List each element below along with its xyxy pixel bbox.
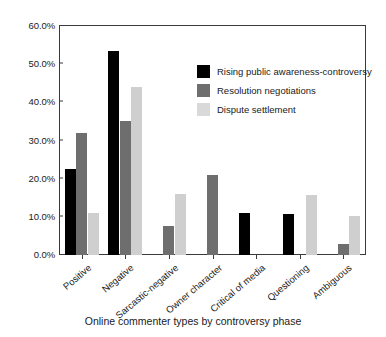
bar-group: [283, 26, 317, 255]
legend-item: Resolution negotiations: [197, 81, 372, 100]
x-axis-tick-mark: [300, 255, 301, 259]
y-axis-tick-label: 50.0%: [29, 58, 55, 69]
bar: [120, 121, 131, 255]
y-axis-tick-label: 40.0%: [29, 96, 55, 107]
x-axis-title: Online commenter types by controversy ph…: [0, 315, 386, 327]
bar-chart: 0.0%10.0%20.0%30.0%40.0%50.0%60.0% Posit…: [0, 0, 386, 337]
bar: [239, 213, 250, 255]
bar-group: [65, 26, 99, 255]
bar: [88, 213, 99, 255]
bar: [175, 194, 186, 255]
bar: [283, 214, 294, 255]
x-axis-tick-mark: [125, 255, 126, 259]
legend-swatch-icon: [197, 103, 210, 116]
bar-group: [239, 26, 273, 255]
x-axis-tick-mark: [213, 255, 214, 259]
bar-group: [196, 26, 230, 255]
x-axis-category-label: Negative: [100, 262, 136, 295]
legend-item: Rising public awareness-controversy: [197, 62, 372, 81]
y-axis-tick-label: 30.0%: [29, 134, 55, 145]
legend-item: Dispute settlement: [197, 100, 372, 119]
bar: [163, 226, 174, 255]
bar: [338, 244, 349, 255]
x-axis-tick-mark: [343, 255, 344, 259]
bar-group: [108, 26, 142, 255]
y-axis-tick-mark: [59, 177, 63, 178]
y-axis-tick-label: 0.0%: [34, 249, 55, 260]
x-axis-category-label: Positive: [61, 262, 94, 292]
y-axis-tick-mark: [59, 63, 63, 64]
legend-label: Dispute settlement: [217, 104, 296, 115]
legend-label: Resolution negotiations: [217, 85, 316, 96]
bar: [76, 133, 87, 255]
chart-legend: Rising public awareness-controversyResol…: [197, 62, 372, 119]
legend-label: Rising public awareness-controversy: [217, 66, 372, 77]
y-axis: 0.0%10.0%20.0%30.0%40.0%50.0%60.0%: [0, 25, 55, 255]
y-axis-tick-label: 10.0%: [29, 210, 55, 221]
bar-group: [152, 26, 186, 255]
bar: [131, 87, 142, 255]
x-axis-category-label: Ambiguous: [310, 262, 353, 301]
y-axis-tick-mark: [59, 101, 63, 102]
x-axis-category-label: Questioning: [265, 262, 311, 303]
y-axis-tick-mark: [59, 215, 63, 216]
x-axis-tick-mark: [256, 255, 257, 259]
bar: [349, 216, 360, 255]
legend-swatch-icon: [197, 84, 210, 97]
bar: [65, 169, 76, 255]
legend-swatch-icon: [197, 65, 210, 78]
bar-group: [326, 26, 360, 255]
y-axis-tick-mark: [59, 139, 63, 140]
bars-layer: [60, 26, 365, 255]
bar: [207, 175, 218, 255]
y-axis-tick-label: 20.0%: [29, 172, 55, 183]
x-axis-tick-mark: [82, 255, 83, 259]
x-axis-tick-mark: [169, 255, 170, 259]
y-axis-tick-label: 60.0%: [29, 20, 55, 31]
bar: [108, 51, 119, 255]
bar: [306, 195, 317, 255]
